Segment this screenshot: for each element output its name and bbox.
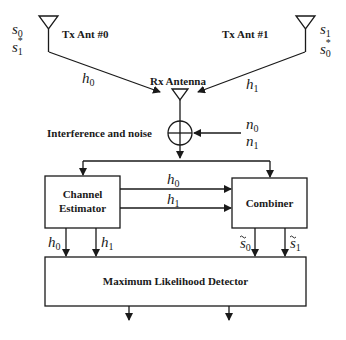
h1-channel-label: h1 <box>246 76 259 94</box>
h0-lower-label: h0 <box>48 234 61 252</box>
channel-h0-arrow <box>49 52 160 92</box>
s0-tilde-label: s0 <box>240 235 251 253</box>
channel-estimator-label-line1: Channel <box>63 188 103 200</box>
combiner-label: Combiner <box>246 197 294 209</box>
rx-antenna-icon <box>172 89 188 121</box>
rx-antenna-label: Rx Antenna <box>150 75 206 87</box>
tx-antenna-0-label: Tx Ant #0 <box>62 28 109 40</box>
h0-channel-label: h0 <box>82 70 95 88</box>
h1-mid-label: h1 <box>167 191 180 209</box>
n1-label: n1 <box>246 133 259 151</box>
ml-detector-label: Maximum Likelihood Detector <box>103 275 249 287</box>
channel-estimator-label-line2: Estimator <box>59 202 106 214</box>
noise-label: Interference and noise <box>47 127 152 139</box>
s1-tilde-label: s1 <box>290 235 301 253</box>
n0-label: n0 <box>246 116 259 134</box>
tx-antenna-0-icon <box>39 16 58 52</box>
h1-lower-label: h1 <box>101 234 114 252</box>
adder-icon <box>168 121 192 145</box>
tx0-symbols: s0 s1* <box>12 21 23 57</box>
h0-mid-label: h0 <box>167 171 180 189</box>
svg-text:s0*: s0* <box>320 37 331 59</box>
tx-antenna-1-icon <box>296 16 315 52</box>
svg-text:s1*: s1* <box>12 35 23 57</box>
tx1-symbols: s1 s0* <box>320 21 331 59</box>
stbc-diagram: Tx Ant #0 Tx Ant #1 Rx Antenna Interfere… <box>0 0 346 340</box>
tx-antenna-1-label: Tx Ant #1 <box>222 28 268 40</box>
